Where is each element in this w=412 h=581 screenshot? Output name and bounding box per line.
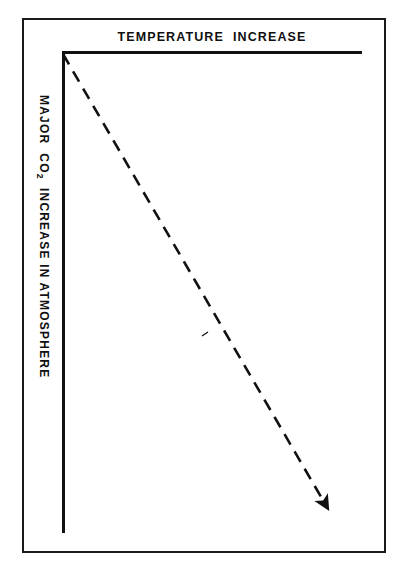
figure-root: TEMPERATURE INCREASE MAJORCO2INCREASE IN…: [0, 0, 412, 581]
y-axis-label-tail: INCREASE IN ATMOSPHERE: [37, 188, 51, 378]
y-axis-label: MAJORCO2INCREASE IN ATMOSPHERE: [34, 95, 50, 378]
y-axis-label-subscript: 2: [35, 174, 45, 179]
y-axis-label-lead: MAJOR: [37, 95, 51, 144]
x-axis-line: [62, 51, 362, 54]
plot-area: [0, 0, 412, 581]
y-axis-line: [62, 51, 65, 533]
y-axis-label-species: CO: [37, 153, 51, 173]
